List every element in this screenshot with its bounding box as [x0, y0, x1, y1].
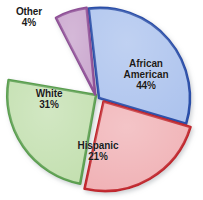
- pie-slice-white-sheen: [7, 80, 96, 184]
- pie-chart: African American 44% Hispanic 21% White …: [0, 0, 203, 200]
- pie-chart-graphic: [0, 0, 203, 200]
